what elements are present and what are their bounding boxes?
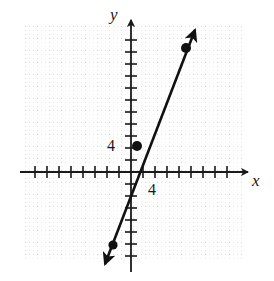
x-axis-tick-label: 4 bbox=[148, 182, 156, 198]
point-upper bbox=[181, 43, 191, 53]
point-lower bbox=[108, 240, 117, 249]
coordinate-plane-svg bbox=[0, 0, 274, 281]
graph-figure: y x 4 4 bbox=[0, 0, 274, 281]
y-axis-label: y bbox=[110, 6, 118, 23]
x-axis-label: x bbox=[252, 172, 260, 189]
point-y-intercept bbox=[132, 141, 142, 151]
y-axis-tick-label: 4 bbox=[107, 138, 115, 154]
